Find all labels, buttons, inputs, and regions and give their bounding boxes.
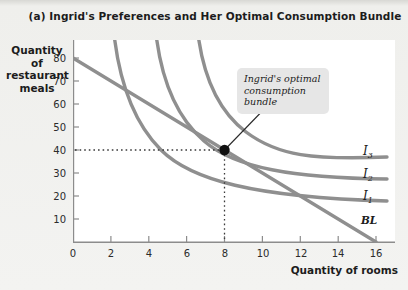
y-tick-label-10: 10 <box>40 214 66 225</box>
y-tick-label-50: 50 <box>40 122 66 133</box>
x-axis-label: Quantity of rooms <box>0 264 398 276</box>
y-tick-label-70: 70 <box>40 76 66 87</box>
figure-title: (a) Ingrid's Preferences and Her Optimal… <box>0 10 408 22</box>
curve-label-bl: BL <box>361 214 377 226</box>
optimal-bundle-point <box>219 145 229 155</box>
x-tick-label-6: 6 <box>174 248 200 259</box>
chart-svg <box>73 40 395 243</box>
x-tick-label-10: 10 <box>250 248 276 259</box>
plot-area: I3 I2 I1 BL <box>73 40 395 243</box>
y-tick-label-20: 20 <box>40 191 66 202</box>
y-tick-label-40: 40 <box>40 145 66 156</box>
x-tick-label-14: 14 <box>325 248 351 259</box>
annotation-callout: Ingrid's optimal consumption bundle <box>237 68 329 114</box>
x-tick-label-0: 0 <box>60 248 86 259</box>
x-tick-label-4: 4 <box>136 248 162 259</box>
y-tick-label-80: 80 <box>40 53 66 64</box>
x-tick-label-12: 12 <box>288 248 314 259</box>
y-tick-label-30: 30 <box>40 168 66 179</box>
x-tick-label-8: 8 <box>212 248 238 259</box>
x-tick-label-2: 2 <box>98 248 124 259</box>
curve-label-i1: I1 <box>363 189 373 205</box>
page-background: (a) Ingrid's Preferences and Her Optimal… <box>0 0 408 290</box>
x-tick-label-16: 16 <box>363 248 389 259</box>
x-tick-marks <box>111 236 376 242</box>
curve-label-i3: I3 <box>363 144 373 160</box>
curve-label-i2: I2 <box>363 167 373 183</box>
y-tick-label-60: 60 <box>40 99 66 110</box>
figure-panel: (a) Ingrid's Preferences and Her Optimal… <box>0 0 408 290</box>
